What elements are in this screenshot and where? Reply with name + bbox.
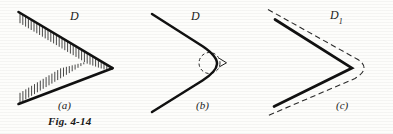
panel-b-boundary bbox=[152, 14, 217, 112]
panel-c-region-label: D bbox=[330, 8, 339, 22]
figure-caption: Fig. 4-14 bbox=[48, 116, 91, 127]
panel-a-drawing bbox=[19, 12, 113, 104]
panel-b-label: (b) bbox=[196, 100, 209, 111]
panel-c-label: (c) bbox=[336, 100, 348, 111]
panel-b-drawing bbox=[152, 14, 227, 112]
panel-a-upper-edge bbox=[19, 12, 113, 68]
figure-4-14: D (a) D (b) D1 (c) Fig. 4-14 bbox=[0, 0, 393, 134]
panel-b-region-label: D bbox=[191, 10, 200, 22]
panel-a-region-label: D bbox=[70, 10, 79, 22]
panel-c-region-label-group: D1 bbox=[330, 9, 343, 24]
panel-c-solid-boundary bbox=[274, 20, 352, 107]
panel-c-drawing bbox=[267, 10, 364, 117]
panel-a-label: (a) bbox=[58, 100, 71, 111]
panel-c-dashed-outline bbox=[267, 10, 364, 117]
panel-b-arrowhead-icon bbox=[220, 59, 227, 67]
panel-c-region-label-subscript: 1 bbox=[339, 17, 343, 26]
